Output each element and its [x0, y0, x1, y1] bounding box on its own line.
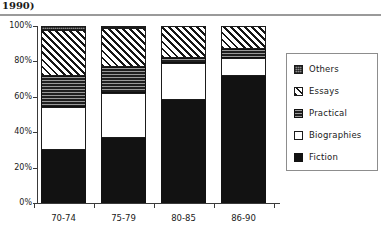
- bar-segment-70-74-fiction: [41, 150, 86, 203]
- bar-segment-86-90-practical: [221, 49, 266, 58]
- legend-label: Essays: [309, 87, 339, 96]
- y-axis-tick-label: 40%: [1, 128, 32, 136]
- bar-segment-86-90-biographies: [221, 58, 266, 76]
- x-axis-line: [37, 203, 280, 204]
- legend-item-biographies[interactable]: Biographies: [294, 130, 362, 141]
- y-axis-line: [37, 26, 38, 203]
- bar-segment-75-79-others: [101, 26, 146, 28]
- bar-segment-80-85-practical: [161, 58, 206, 63]
- y-axis-tick-mark: [33, 26, 38, 27]
- legend-label: Others: [309, 65, 339, 74]
- x-axis-tick-mark: [274, 204, 275, 208]
- bar-segment-86-90-fiction: [221, 76, 266, 203]
- legend-swatch-others-icon: [294, 65, 303, 74]
- legend-swatch-practical-icon: [294, 109, 303, 118]
- legend-swatch-fiction-icon: [294, 153, 303, 162]
- x-axis-tick-label: 70-74: [34, 214, 94, 223]
- y-axis-tick-label: 80%: [1, 57, 32, 65]
- legend-label: Biographies: [309, 131, 362, 140]
- bar-segment-75-79-practical: [101, 67, 146, 94]
- bar-segment-80-85-biographies: [161, 63, 206, 100]
- x-axis-tick-mark: [154, 204, 155, 208]
- page-title-fragment: 1990): [2, 0, 35, 11]
- x-axis-tick-mark: [214, 204, 215, 208]
- legend-item-practical[interactable]: Practical: [294, 108, 347, 119]
- bar-80-85: [161, 26, 206, 203]
- y-axis-tick-mark: [33, 97, 38, 98]
- x-axis-tick-label: 80-85: [154, 214, 214, 223]
- y-axis-tick-label: 20%: [1, 164, 32, 172]
- bar-segment-80-85-fiction: [161, 100, 206, 203]
- legend-item-others[interactable]: Others: [294, 64, 339, 75]
- bar-segment-70-74-practical: [41, 76, 86, 108]
- bar-segment-86-90-essays: [221, 26, 266, 49]
- chart-legend: OthersEssaysPracticalBiographiesFiction: [286, 53, 378, 171]
- header-fragment: 1990): [0, 0, 381, 17]
- legend-item-essays[interactable]: Essays: [294, 86, 339, 97]
- bar-segment-75-79-essays: [101, 28, 146, 67]
- x-axis-tick-mark: [34, 204, 35, 208]
- bar-segment-70-74-essays: [41, 30, 86, 76]
- legend-swatch-essays-icon: [294, 87, 303, 96]
- y-axis-tick-label: 100%: [1, 22, 32, 30]
- legend-label: Practical: [309, 109, 347, 118]
- x-axis-tick-label: 75-79: [94, 214, 154, 223]
- header-divider: [0, 14, 381, 16]
- y-axis-tick-label: 0%: [1, 199, 32, 207]
- bar-segment-75-79-fiction: [101, 138, 146, 203]
- y-axis-tick-label: 60%: [1, 93, 32, 101]
- x-axis-tick-mark: [94, 204, 95, 208]
- y-axis-tick-mark: [33, 132, 38, 133]
- bar-segment-70-74-others: [41, 26, 86, 30]
- y-axis-labels: 0%20%40%60%80%100%: [0, 17, 32, 227]
- y-axis-tick-mark: [33, 168, 38, 169]
- bar-86-90: [221, 26, 266, 203]
- legend-swatch-biographies-icon: [294, 131, 303, 140]
- x-axis-tick-label: 86-90: [214, 214, 274, 223]
- bar-segment-80-85-essays: [161, 26, 206, 58]
- bar-70-74: [41, 26, 86, 203]
- bar-segment-70-74-biographies: [41, 107, 86, 149]
- y-axis-tick-mark: [33, 61, 38, 62]
- bar-segment-75-79-biographies: [101, 93, 146, 137]
- legend-label: Fiction: [309, 153, 338, 162]
- legend-item-fiction[interactable]: Fiction: [294, 152, 338, 163]
- bar-75-79: [101, 26, 146, 203]
